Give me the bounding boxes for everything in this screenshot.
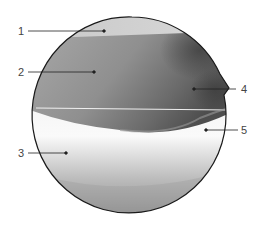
label-3: 3 — [18, 147, 24, 159]
image-regions — [30, 10, 240, 220]
label-1: 1 — [18, 25, 24, 37]
arthroscopy-image — [0, 0, 265, 229]
label-5: 5 — [241, 124, 247, 136]
arthroscopy-figure: 1 2 3 4 5 — [0, 0, 265, 229]
region-1 — [30, 10, 240, 38]
label-2: 2 — [18, 66, 24, 78]
label-4: 4 — [241, 83, 247, 95]
